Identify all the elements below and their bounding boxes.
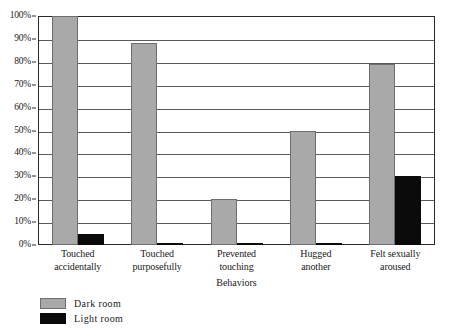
y-axis-tick-label: 70% (14, 80, 31, 90)
y-axis-tick-label: 100% (10, 11, 31, 21)
x-axis-tick-label: Touchedaccidentally (38, 248, 117, 273)
y-axis-tick-label: 40% (14, 149, 31, 159)
y-axis-tick-label: 60% (14, 103, 31, 113)
figure-bar-chart: 0%10%20%30%40%50%60%70%80%90%100% Touche… (0, 0, 450, 332)
y-axis-tick-mark (32, 222, 36, 223)
y-axis-tick-label: 10% (14, 217, 31, 227)
y-axis-tick-mark (32, 199, 36, 200)
legend-swatch-dark-room (40, 298, 66, 309)
chart-legend: Dark room Light room (40, 296, 123, 326)
x-axis-tick-label: Felt sexuallyaroused (356, 248, 435, 273)
x-axis-category-labels: TouchedaccidentallyTouchedpurposefullyPr… (38, 248, 435, 280)
y-axis-tick-mark (32, 153, 36, 154)
legend-label-light-room: Light room (74, 313, 123, 324)
plot-area (38, 16, 435, 245)
y-axis-tick-mark (32, 245, 36, 246)
gridline (39, 177, 434, 178)
x-axis-title: Behaviors (38, 277, 435, 288)
y-axis-tick-label: 0% (19, 240, 31, 250)
x-axis-tick-label: Preventedtouching (197, 248, 276, 273)
y-axis-tick-mark (32, 84, 36, 85)
y-axis-tick-label: 20% (14, 194, 31, 204)
legend-label-dark-room: Dark room (74, 298, 121, 309)
gridline (39, 86, 434, 87)
gridline (39, 109, 434, 110)
gridline (39, 200, 434, 201)
y-axis-tick-label: 90% (14, 34, 31, 44)
gridline (39, 154, 434, 155)
x-axis-tick-label: Touchedpurposefully (117, 248, 196, 273)
y-axis-tick-mark (32, 176, 36, 177)
legend-item-light-room: Light room (40, 311, 123, 325)
y-axis-tick-mark (32, 61, 36, 62)
y-axis-tick-mark (32, 38, 36, 39)
x-axis-tick-label: Huggedanother (276, 248, 355, 273)
gridline (39, 223, 434, 224)
y-axis: 0%10%20%30%40%50%60%70%80%90%100% (0, 16, 36, 245)
y-axis-tick-label: 50% (14, 126, 31, 136)
y-axis-tick-mark (32, 130, 36, 131)
gridline (39, 63, 434, 64)
legend-item-dark-room: Dark room (40, 296, 123, 310)
gridline (39, 40, 434, 41)
y-axis-tick-label: 80% (14, 57, 31, 67)
y-axis-tick-mark (32, 107, 36, 108)
legend-swatch-light-room (40, 313, 66, 324)
gridline (39, 132, 434, 133)
y-axis-tick-mark (32, 16, 36, 17)
y-axis-tick-label: 30% (14, 172, 31, 182)
